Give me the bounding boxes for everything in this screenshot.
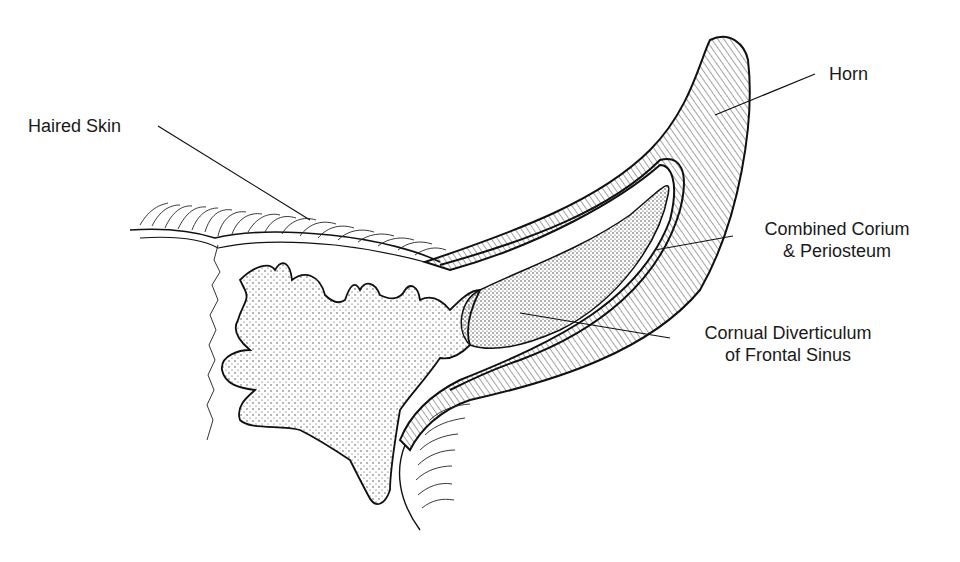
skull-suture <box>207 245 220 440</box>
horn-illustration <box>0 0 960 562</box>
label-corium: Combined Corium & Periosteum <box>740 218 934 262</box>
label-haired-skin: Haired Skin <box>28 115 121 137</box>
label-corium-line2: & Periosteum <box>740 240 934 262</box>
horn-sheath <box>400 37 750 450</box>
anatomy-diagram: Haired Skin Horn Combined Corium & Perio… <box>0 0 960 562</box>
frontal-sinus <box>222 263 480 504</box>
leader-haired-skin <box>158 126 310 220</box>
label-cornual-line2: of Frontal Sinus <box>683 344 893 366</box>
label-cornual-line1: Cornual Diverticulum <box>683 322 893 344</box>
label-cornual-diverticulum: Cornual Diverticulum of Frontal Sinus <box>683 322 893 366</box>
label-horn: Horn <box>829 63 868 85</box>
label-corium-line1: Combined Corium <box>740 218 934 240</box>
